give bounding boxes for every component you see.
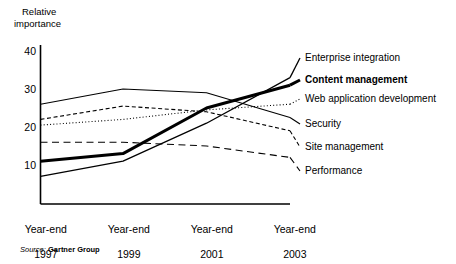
source-name: Gartner Group xyxy=(48,245,100,254)
legend-label-site-management: Site management xyxy=(305,141,383,152)
legend-label-performance: Performance xyxy=(305,165,362,176)
x-tick-1999-line2: 1999 xyxy=(117,248,140,260)
legend-leader-security xyxy=(290,118,300,125)
x-tick-label-2003: Year-end 2003 xyxy=(249,210,329,264)
legend-leader-performance xyxy=(290,157,300,171)
series-line-performance xyxy=(41,142,291,157)
legend-label-content-management: Content management xyxy=(305,74,407,85)
x-tick-2001-line2: 2001 xyxy=(200,248,223,260)
x-tick-2003-line1: Year-end xyxy=(274,223,316,235)
legend-leader-enterprise-integration xyxy=(290,58,300,78)
x-tick-label-1997: Year-end 1997 xyxy=(0,210,80,264)
legend-leader-site-management xyxy=(290,131,300,147)
x-tick-label-2001: Year-end 2001 xyxy=(166,210,246,264)
x-tick-1997-line1: Year-end xyxy=(25,223,67,235)
source-prefix: Source: xyxy=(20,245,46,254)
series-line-site-management xyxy=(41,106,291,131)
legend-label-enterprise-integration: Enterprise integration xyxy=(305,52,400,63)
chart-figure: Relative importance 40 30 20 10 Year-end… xyxy=(0,0,456,264)
series-line-security xyxy=(41,89,291,118)
x-tick-1999-line1: Year-end xyxy=(108,223,150,235)
series-line-enterprise-integration xyxy=(41,78,291,177)
source-note: Source: Gartner Group xyxy=(20,245,100,254)
legend-label-web-application-development: Web application development xyxy=(305,93,436,104)
legend-leader-web-application-development xyxy=(290,99,300,104)
series-line-content-management xyxy=(41,85,291,161)
x-tick-2003-line2: 2003 xyxy=(283,248,306,260)
legend-leader-content-management xyxy=(290,80,300,85)
legend-label-security: Security xyxy=(305,118,341,129)
x-tick-2001-line1: Year-end xyxy=(191,223,233,235)
x-tick-label-1999: Year-end 1999 xyxy=(83,210,163,264)
